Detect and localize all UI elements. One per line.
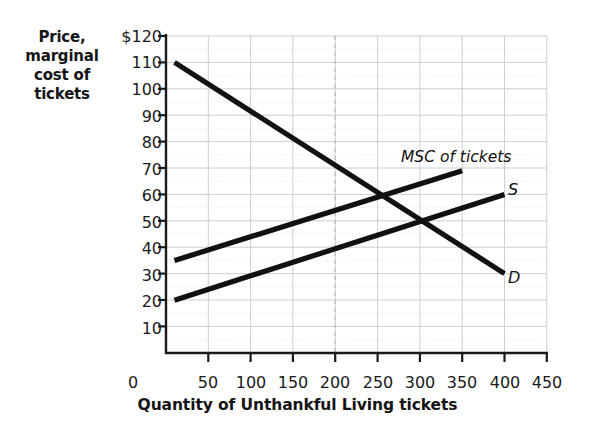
curve-label-supply: S: [508, 180, 518, 199]
x-tick-label-250: 250: [355, 375, 401, 391]
curve-label-demand: D: [508, 268, 520, 287]
x-tick-label-0: 0: [110, 375, 156, 391]
x-axis-tick-labels: 0 50 100 150 200 250 300 350 400 450: [0, 0, 595, 439]
x-tick-label-350: 350: [439, 375, 485, 391]
x-tick-label-150: 150: [270, 375, 316, 391]
x-tick-label-100: 100: [228, 375, 274, 391]
x-axis-title: Quantity of Unthankful Living tickets: [0, 396, 595, 414]
curve-label-msc: MSC of tickets: [401, 148, 511, 166]
x-tick-label-200: 200: [312, 375, 358, 391]
x-tick-label-450: 450: [524, 375, 570, 391]
chart-figure: Price, marginal cost of tickets $120 110…: [0, 0, 595, 439]
x-tick-label-50: 50: [185, 375, 231, 391]
x-tick-label-300: 300: [397, 375, 443, 391]
x-tick-label-400: 400: [482, 375, 528, 391]
